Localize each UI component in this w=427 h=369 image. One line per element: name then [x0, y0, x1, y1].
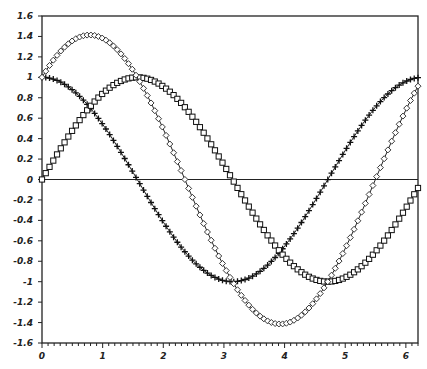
diamond-marker	[355, 218, 361, 224]
square-marker	[62, 140, 67, 145]
diamond-marker	[396, 121, 402, 127]
diamond-marker	[344, 243, 350, 249]
y-tick-label: 0.2	[17, 154, 33, 164]
x-tick-label: 2	[160, 351, 166, 361]
square-marker	[227, 173, 232, 178]
square-marker	[73, 123, 78, 128]
diamond-marker	[167, 141, 173, 147]
y-tick-label: -1.2	[13, 297, 33, 307]
square-marker	[216, 154, 221, 159]
square-marker	[378, 243, 383, 248]
plus-marker	[313, 195, 319, 201]
square-marker	[389, 227, 394, 232]
square-marker	[194, 119, 199, 124]
diamond-marker	[186, 185, 192, 191]
diamond-marker	[178, 168, 184, 174]
diamond-marker	[351, 226, 357, 232]
square-marker	[224, 166, 229, 171]
plus-marker	[159, 218, 165, 224]
diamond-marker	[156, 116, 162, 122]
square-marker	[415, 185, 420, 190]
square-marker	[385, 233, 390, 238]
square-marker	[404, 204, 409, 209]
x-tick-label: 4	[280, 351, 287, 361]
plus-marker	[129, 168, 135, 174]
diamond-marker	[400, 113, 406, 119]
square-marker	[254, 216, 259, 221]
diamond-marker	[347, 235, 353, 241]
square-marker	[47, 164, 52, 169]
diamond-marker	[407, 98, 413, 104]
diamond-marker	[148, 100, 154, 106]
square-marker	[400, 210, 405, 215]
x-tick-label: 0	[39, 351, 45, 361]
x-tick-label: 5	[342, 351, 348, 361]
diamond-marker	[366, 191, 372, 197]
y-tick-label: 1.6	[17, 11, 33, 21]
diamond-marker	[321, 285, 327, 291]
y-tick-label: 1.4	[17, 31, 33, 41]
square-marker	[269, 238, 274, 243]
plus-marker	[336, 158, 342, 164]
square-marker	[382, 238, 387, 243]
diamond-marker	[223, 268, 229, 274]
plus-marker	[114, 143, 120, 149]
y-tick-label: -0.2	[13, 195, 33, 205]
diamond-marker	[219, 260, 225, 266]
plus-marker	[167, 229, 173, 235]
y-tick-label: 1.2	[17, 52, 33, 62]
diamond-marker	[374, 174, 380, 180]
square-marker	[242, 198, 247, 203]
diamond-marker	[377, 165, 383, 171]
plus-marker	[295, 225, 301, 231]
square-marker	[51, 158, 56, 163]
square-marker	[39, 177, 44, 182]
diamond-marker	[336, 258, 342, 264]
square-marker	[265, 233, 270, 238]
diamond-marker	[39, 74, 45, 80]
square-marker	[220, 160, 225, 165]
plus-marker	[325, 177, 331, 183]
y-tick-label: -0.8	[13, 256, 33, 266]
diamond-marker	[141, 85, 147, 91]
plus-marker	[152, 206, 158, 212]
square-marker	[209, 142, 214, 147]
y-tick-label: 1	[27, 72, 33, 82]
plus-marker	[50, 76, 56, 82]
x-tick-label: 3	[221, 351, 227, 361]
square-marker	[69, 128, 74, 133]
plus-marker	[107, 132, 113, 138]
plus-marker	[344, 145, 350, 151]
square-marker	[393, 222, 398, 227]
plus-marker	[306, 208, 312, 214]
diamond-marker	[204, 229, 210, 235]
plus-marker	[321, 183, 327, 189]
diamond-marker	[159, 124, 165, 130]
y-tick-label: 0.6	[17, 113, 33, 123]
plus-marker	[144, 193, 150, 199]
diamond-marker	[43, 68, 49, 74]
diamond-marker	[212, 245, 218, 251]
square-marker	[250, 210, 255, 215]
y-tick-label: -1.4	[13, 318, 33, 328]
plus-marker	[415, 75, 421, 81]
plus-marker	[298, 220, 304, 226]
diamond-marker	[174, 159, 180, 165]
square-marker	[201, 130, 206, 135]
diamond-marker	[370, 183, 376, 189]
diamond-marker	[381, 156, 387, 162]
square-marker	[397, 216, 402, 221]
diamond-marker	[208, 237, 214, 243]
diamond-marker	[392, 130, 398, 136]
plus-marker	[238, 278, 244, 284]
plus-marker	[302, 214, 308, 220]
plus-marker	[118, 149, 124, 155]
plus-marker	[332, 164, 338, 170]
y-tick-label: -0.6	[13, 236, 33, 246]
diamond-marker	[404, 105, 410, 111]
diamond-marker	[332, 265, 338, 271]
plus-marker	[329, 170, 335, 176]
diamond-marker	[197, 212, 203, 218]
square-marker	[246, 204, 251, 209]
diamond-marker	[362, 200, 368, 206]
